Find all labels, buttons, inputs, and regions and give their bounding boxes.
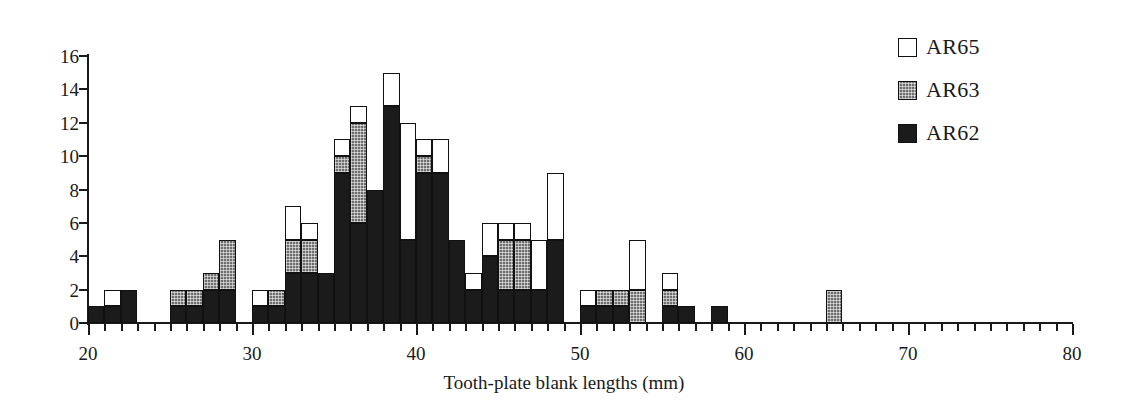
bar-segment-ar63	[629, 290, 645, 323]
bar-segment-ar63	[301, 240, 317, 273]
histogram-bar	[170, 290, 186, 323]
bar-segment-ar63	[613, 290, 629, 307]
x-tick-major	[416, 324, 418, 335]
histogram-bar	[547, 173, 563, 323]
bar-segment-ar62	[170, 306, 186, 323]
x-tick-label: 50	[571, 344, 590, 363]
bar-segment-ar63	[596, 290, 612, 307]
bar-segment-ar63	[219, 240, 235, 290]
bar-segment-ar62	[334, 173, 350, 323]
y-tick-mark	[79, 255, 88, 257]
x-tick-minor	[728, 324, 730, 331]
x-tick-minor	[121, 324, 123, 331]
x-tick-label: 20	[79, 344, 98, 363]
y-tick-mark	[79, 88, 88, 90]
legend-item-ar63[interactable]: AR63	[898, 79, 980, 101]
x-tick-minor	[596, 324, 598, 331]
x-tick-minor	[859, 324, 861, 331]
legend-item-ar65[interactable]: AR65	[898, 36, 980, 58]
bar-segment-ar65	[334, 139, 350, 156]
x-tick-minor	[285, 324, 287, 331]
histogram-bar	[285, 206, 301, 323]
bar-segment-ar65	[580, 290, 596, 307]
y-tick-mark	[79, 155, 88, 157]
y-tick-label: 12	[60, 113, 79, 132]
bar-segment-ar63	[350, 123, 366, 223]
x-tick-minor	[564, 324, 566, 331]
legend-item-ar62[interactable]: AR62	[898, 122, 980, 144]
bar-segment-ar62	[219, 290, 235, 323]
bar-segment-ar65	[383, 73, 399, 106]
bar-segment-ar62	[531, 290, 547, 323]
histogram-bar	[88, 306, 104, 323]
y-tick-mark	[79, 189, 88, 191]
bar-segment-ar65	[662, 273, 678, 290]
x-tick-minor	[711, 324, 713, 331]
x-tick-minor	[482, 324, 484, 331]
x-tick-label: 40	[407, 344, 426, 363]
x-tick-label: 60	[735, 344, 754, 363]
x-tick-minor	[826, 324, 828, 331]
y-tick-label: 8	[70, 180, 80, 199]
bar-segment-ar62	[285, 273, 301, 323]
x-tick-major	[908, 324, 910, 335]
bar-segment-ar63	[498, 240, 514, 290]
histogram-bar	[662, 273, 678, 323]
bar-segment-ar62	[711, 306, 727, 323]
x-tick-major	[252, 324, 254, 335]
bar-segment-ar65	[350, 106, 366, 123]
histogram-bar	[711, 306, 727, 323]
chart-legend: AR65AR63AR62	[898, 36, 980, 144]
bar-segment-ar62	[121, 290, 137, 323]
x-tick-minor	[219, 324, 221, 331]
x-tick-label: 80	[1063, 344, 1082, 363]
x-tick-label: 70	[899, 344, 918, 363]
bar-segment-ar62	[301, 273, 317, 323]
histogram-bar	[350, 106, 366, 323]
histogram-bar	[482, 223, 498, 323]
bar-segment-ar62	[367, 190, 383, 324]
bar-segment-ar62	[596, 306, 612, 323]
histogram-bar	[186, 290, 202, 323]
histogram-bar	[301, 223, 317, 323]
bar-segment-ar62	[416, 173, 432, 323]
x-tick-minor	[154, 324, 156, 331]
x-tick-minor	[1039, 324, 1041, 331]
x-tick-minor	[170, 324, 172, 331]
x-tick-minor	[974, 324, 976, 331]
x-tick-major	[1072, 324, 1074, 335]
y-tick-mark	[79, 55, 88, 57]
x-tick-minor	[137, 324, 139, 331]
bar-segment-ar65	[482, 223, 498, 256]
bar-segment-ar63	[514, 240, 530, 290]
x-tick-minor	[892, 324, 894, 331]
histogram-bar	[367, 190, 383, 324]
x-tick-minor	[465, 324, 467, 331]
x-tick-minor	[875, 324, 877, 331]
histogram-bar	[678, 306, 694, 323]
x-tick-minor	[514, 324, 516, 331]
bar-segment-ar63	[203, 273, 219, 290]
x-tick-major	[580, 324, 582, 335]
legend-swatch-icon	[898, 124, 917, 143]
x-tick-minor	[383, 324, 385, 331]
x-tick-minor	[1006, 324, 1008, 331]
x-tick-minor	[318, 324, 320, 331]
bar-segment-ar65	[531, 240, 547, 290]
x-tick-minor	[186, 324, 188, 331]
bar-segment-ar62	[203, 290, 219, 323]
bar-segment-ar62	[514, 290, 530, 323]
y-tick-label: 16	[60, 47, 79, 66]
histogram-bar	[416, 139, 432, 323]
bar-segment-ar65	[629, 240, 645, 290]
histogram-bar	[580, 290, 596, 323]
histogram-bar	[383, 73, 399, 323]
bar-segment-ar65	[285, 206, 301, 239]
legend-label: AR62	[926, 122, 980, 144]
bar-segment-ar62	[449, 240, 465, 323]
x-tick-minor	[777, 324, 779, 331]
bar-segment-ar63	[268, 290, 284, 307]
x-tick-minor	[268, 324, 270, 331]
x-tick-minor	[990, 324, 992, 331]
y-tick-label: 2	[70, 280, 80, 299]
